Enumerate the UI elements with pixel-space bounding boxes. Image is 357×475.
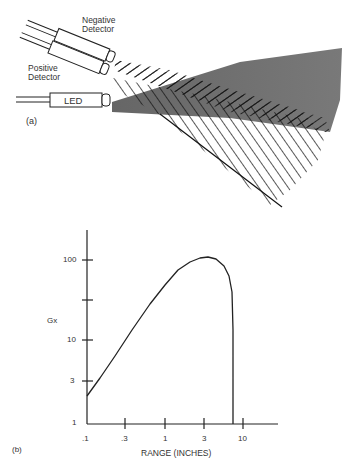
gx-curve: [87, 257, 233, 424]
x-tick-1: 1: [163, 434, 167, 443]
y-tick-10: 10: [67, 335, 76, 344]
y-axis-label: Gx: [47, 316, 57, 325]
y-tick-1: 1: [72, 418, 76, 427]
x-axis-label: RANGE (INCHES): [141, 448, 211, 458]
x-tick-0.3: .3: [121, 434, 128, 443]
figure: Negative Detector Positive Detector LED …: [0, 0, 357, 475]
gx-range-chart: [0, 0, 357, 475]
x-tick-10: 10: [238, 434, 247, 443]
panel-b-label: (b): [12, 445, 22, 454]
x-tick-0.1: .1: [82, 434, 89, 443]
y-tick-100: 100: [63, 255, 76, 264]
x-tick-3: 3: [202, 434, 206, 443]
y-tick-3: 3: [70, 376, 74, 385]
